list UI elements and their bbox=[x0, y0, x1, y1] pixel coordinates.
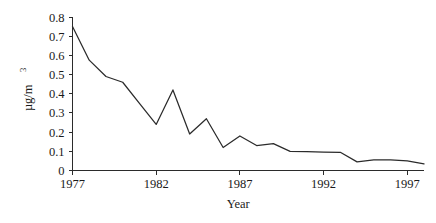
y-tick-label: 0.6 bbox=[49, 49, 65, 63]
x-tick-label: 1977 bbox=[60, 177, 85, 191]
x-tick-label: 1987 bbox=[227, 177, 252, 191]
y-tick-label: 0.5 bbox=[49, 68, 65, 82]
chart-canvas: 00.10.20.30.40.50.60.70.8 19771982198719… bbox=[0, 0, 436, 223]
data-series-line bbox=[73, 27, 425, 164]
y-tick-label: 0.8 bbox=[49, 11, 65, 25]
y-tick-label: 0.3 bbox=[49, 106, 65, 120]
x-axis-tick-labels: 19771982198719921997 bbox=[60, 177, 420, 191]
x-tick-label: 1997 bbox=[395, 177, 420, 191]
y-axis-tick-marks bbox=[69, 17, 73, 171]
y-tick-label: 0.1 bbox=[49, 145, 65, 159]
y-axis-title: µg/m 3 bbox=[18, 68, 35, 111]
x-axis-tick-marks bbox=[73, 171, 408, 175]
y-axis-tick-labels: 00.10.20.30.40.50.60.70.8 bbox=[49, 11, 65, 179]
x-tick-label: 1982 bbox=[144, 177, 169, 191]
y-tick-label: 0.7 bbox=[49, 30, 65, 44]
y-tick-label: 0.2 bbox=[49, 126, 65, 140]
x-tick-label: 1992 bbox=[311, 177, 336, 191]
y-tick-label: 0.4 bbox=[49, 87, 65, 101]
y-axis-title-superscript: 3 bbox=[18, 68, 28, 72]
y-axis-title-text: µg/m bbox=[21, 84, 35, 111]
x-axis-title-text: Year bbox=[227, 197, 251, 211]
line-chart-figure: 00.10.20.30.40.50.60.70.8 19771982198719… bbox=[0, 0, 436, 223]
